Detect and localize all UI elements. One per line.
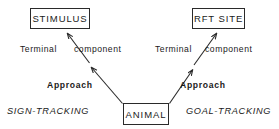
edge-label-component-left: component <box>74 44 121 54</box>
node-animal-label: ANIMAL <box>126 109 167 120</box>
node-animal: ANIMAL <box>123 103 169 125</box>
edge-label-approach-right: Approach <box>180 80 226 90</box>
edge-label-approach-left: Approach <box>47 80 93 90</box>
node-rft-site: RFT SITE <box>192 8 245 29</box>
outcome-label-sign-tracking: SIGN-TRACKING <box>7 106 89 116</box>
diagram-canvas: STIMULUS RFT SITE ANIMAL Terminal compon… <box>0 0 279 129</box>
edge-label-terminal-right: Terminal <box>155 44 192 54</box>
node-stimulus: STIMULUS <box>30 8 90 29</box>
edge-label-component-right: component <box>205 44 252 54</box>
node-rft-site-label: RFT SITE <box>194 13 243 24</box>
outcome-label-goal-tracking: GOAL-TRACKING <box>186 106 271 116</box>
arrow-approach-left <box>92 68 123 104</box>
edge-label-terminal-left: Terminal <box>20 44 57 54</box>
node-stimulus-label: STIMULUS <box>32 13 87 24</box>
